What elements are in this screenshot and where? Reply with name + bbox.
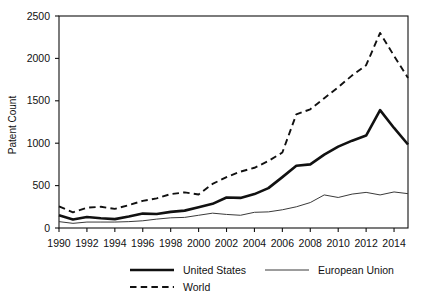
legend-label-world: World — [183, 281, 210, 293]
x-tick-label: 1994 — [103, 237, 127, 249]
patent-count-line-chart: Patent Count 05001000150020002500 199019… — [0, 0, 430, 303]
y-axis-title: Patent Count — [7, 96, 18, 155]
legend-label-european-union: European Union — [318, 264, 394, 276]
x-tick-label: 1992 — [75, 237, 99, 249]
y-tick-label: 500 — [32, 179, 50, 191]
x-tick-label: 2014 — [382, 237, 406, 249]
x-tick-label: 2006 — [271, 237, 295, 249]
y-tick-label: 2500 — [27, 10, 51, 22]
x-tick-label: 2008 — [299, 237, 323, 249]
y-tick-label: 1500 — [27, 94, 51, 106]
x-tick-label: 2004 — [243, 237, 267, 249]
x-tick-label: 1996 — [131, 237, 155, 249]
chart-background — [0, 0, 430, 303]
y-tick-label: 2000 — [27, 52, 51, 64]
legend-label-united-states: United States — [183, 264, 246, 276]
x-tick-label: 2010 — [327, 237, 351, 249]
y-tick-label: 1000 — [27, 137, 51, 149]
chart-figure: Patent Count 05001000150020002500 199019… — [0, 0, 430, 303]
x-tick-label: 2000 — [187, 237, 211, 249]
y-tick-label: 0 — [44, 222, 50, 234]
x-tick-label: 2002 — [215, 237, 239, 249]
x-tick-label: 2012 — [354, 237, 378, 249]
x-tick-label: 1998 — [159, 237, 183, 249]
x-tick-label: 1990 — [47, 237, 71, 249]
